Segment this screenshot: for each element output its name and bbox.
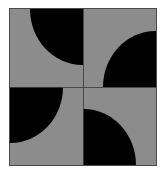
quarter-circle-shape [103, 31, 156, 87]
quarter-circle-shape [10, 87, 63, 143]
pattern-figure [9, 8, 157, 166]
quarter-circle-shape [30, 9, 83, 65]
tile-bottom-right [83, 87, 156, 165]
tile-bottom-left [10, 87, 83, 165]
divider-horizontal [10, 87, 156, 88]
quarter-circle-shape [83, 109, 136, 165]
tile-top-right [83, 9, 156, 87]
tile-top-left [10, 9, 83, 87]
